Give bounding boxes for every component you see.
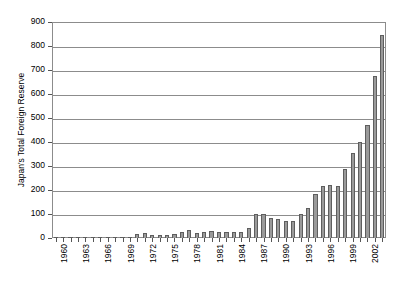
bar [269,218,273,238]
x-axis-tick-mark [367,238,368,242]
x-axis-tick-mark [160,238,161,242]
bar [351,153,355,238]
x-axis-tick-mark [167,238,168,242]
x-axis-tick-label: 1960 [60,244,69,278]
x-axis-tick-mark [360,238,361,242]
bar [373,76,377,238]
x-axis-tick-mark [189,238,190,242]
chart-container: Japan's Total Foreign Reserve 0100200300… [0,0,403,284]
bar [380,35,384,238]
x-axis-tick-mark [204,238,205,242]
x-axis-tick-mark [338,238,339,242]
x-axis-tick-mark [308,238,309,242]
y-axis-tick-label: 600 [5,89,45,98]
bar [299,214,303,238]
x-axis-tick-mark [197,238,198,242]
x-axis-tick-label: 1999 [349,244,358,278]
bar [284,221,288,238]
x-axis-tick-label: 1963 [82,244,91,278]
y-axis-tick-label: 300 [5,161,45,170]
bar [187,230,191,238]
x-axis-tick-mark [315,238,316,242]
x-axis-tick-label: 1990 [282,244,291,278]
x-axis-tick-mark [71,238,72,242]
x-axis-tick-mark [330,238,331,242]
x-axis-tick-label: 1987 [260,244,269,278]
x-axis-tick-mark [115,238,116,242]
y-axis-tick-label: 700 [5,65,45,74]
bar [358,142,362,238]
bar [328,185,332,238]
x-axis-tick-mark [63,238,64,242]
x-axis-tick-label: 1966 [104,244,113,278]
x-axis-tick-mark [382,238,383,242]
y-axis-tick-label: 400 [5,137,45,146]
x-axis-tick-mark [123,238,124,242]
x-axis-tick-label: 1975 [171,244,180,278]
bar [261,214,265,238]
x-axis-tick-mark [345,238,346,242]
x-axis-tick-mark [212,238,213,242]
x-axis-tick-label: 1996 [327,244,336,278]
x-axis-tick-mark [137,238,138,242]
x-axis-tick-mark [293,238,294,242]
x-axis-tick-label: 1972 [149,244,158,278]
x-axis-tick-mark [174,238,175,242]
y-axis-tick-label: 0 [5,233,45,242]
x-axis-tick-mark [278,238,279,242]
x-axis-tick-mark [93,238,94,242]
x-axis-tick-mark [323,238,324,242]
x-axis-tick-mark [286,238,287,242]
x-axis-tick-label: 1969 [127,244,136,278]
x-axis-tick-mark [152,238,153,242]
x-axis-tick-mark [85,238,86,242]
y-axis-tick-labels: 0100200300400500600700800900 [0,0,52,262]
x-axis-tick-mark [219,238,220,242]
bar [336,186,340,238]
bar-series [52,22,386,238]
bar [254,214,258,238]
y-axis-tick-label: 500 [5,113,45,122]
y-axis-tick-label: 900 [5,17,45,26]
bar [209,231,213,238]
x-axis-tick-mark [130,238,131,242]
bar [291,221,295,238]
x-axis-tick-label: 1978 [193,244,202,278]
x-axis-tick-mark [78,238,79,242]
x-axis-tick-mark [56,238,57,242]
bar [313,194,317,238]
x-axis-tick-label: 1981 [216,244,225,278]
bar [247,228,251,238]
bar [306,208,310,238]
x-axis-tick-mark [353,238,354,242]
x-axis-tick-mark [145,238,146,242]
bar [276,219,280,238]
x-axis-tick-mark [375,238,376,242]
y-axis-tick-label: 100 [5,209,45,218]
x-axis-tick-mark [100,238,101,242]
y-axis-tick-label: 200 [5,185,45,194]
bar [343,169,347,238]
x-axis-tick-mark [182,238,183,242]
bar [321,186,325,238]
x-axis-tick-mark [249,238,250,242]
x-axis-tick-label: 2002 [371,244,380,278]
y-axis-tick-label: 800 [5,41,45,50]
x-axis: 1960196319661969197219751978198119841987… [52,238,386,284]
bar [365,125,369,238]
x-axis-tick-label: 1984 [238,244,247,278]
x-axis-tick-mark [241,238,242,242]
x-axis-tick-mark [301,238,302,242]
x-axis-tick-mark [234,238,235,242]
x-axis-tick-mark [271,238,272,242]
x-axis-tick-label: 1993 [305,244,314,278]
x-axis-tick-mark [256,238,257,242]
x-axis-tick-mark [108,238,109,242]
x-axis-tick-mark [264,238,265,242]
x-axis-tick-mark [226,238,227,242]
